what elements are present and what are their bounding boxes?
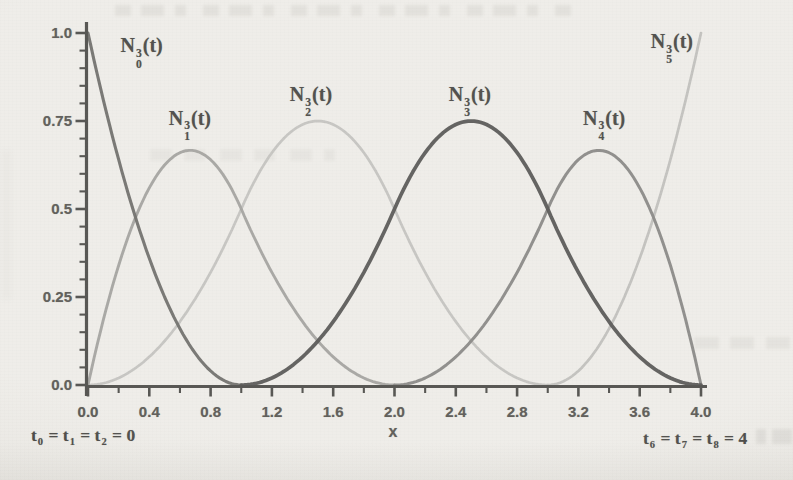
x-tick-label: 0.0	[78, 403, 99, 420]
x-tick-label: 3.2	[568, 403, 589, 420]
y-tick-label: 0.0	[0, 376, 72, 393]
y-tick-label: 1.0	[0, 24, 72, 41]
x-tick-label: 1.2	[261, 403, 282, 420]
y-tick-label: 0.25	[0, 288, 72, 305]
y-tick-label: 0.5	[0, 200, 72, 217]
x-tick-label: 3.6	[629, 403, 650, 420]
x-axis-label: x	[389, 423, 398, 441]
knot-annotation-left: t0 = t1 = t2 = 0	[31, 425, 135, 447]
curve-label-N5: N35(t)	[651, 30, 693, 66]
x-tick-label: 2.8	[507, 403, 528, 420]
x-tick-label: 2.0	[384, 403, 405, 420]
x-tick-label: 1.6	[323, 403, 344, 420]
curve-label-N1: N31(t)	[169, 107, 211, 143]
x-tick-label: 2.4	[445, 403, 466, 420]
x-tick-label: 0.8	[200, 403, 221, 420]
curve-label-N2: N32(t)	[290, 83, 332, 119]
chart-labels-layer: x t0 = t1 = t2 = 0 t6 = t7 = t8 = 4 0.00…	[0, 0, 793, 480]
curve-label-N0: N30(t)	[121, 35, 163, 71]
scanned-textbook-figure: x t0 = t1 = t2 = 0 t6 = t7 = t8 = 4 0.00…	[0, 0, 793, 480]
x-tick-label: 0.4	[139, 403, 160, 420]
curve-label-N3: N33(t)	[449, 83, 491, 119]
y-tick-label: 0.75	[0, 112, 72, 129]
knot-annotation-right: t6 = t7 = t8 = 4	[643, 428, 747, 450]
x-tick-label: 4.0	[691, 403, 712, 420]
curve-label-N4: N34(t)	[583, 107, 625, 143]
